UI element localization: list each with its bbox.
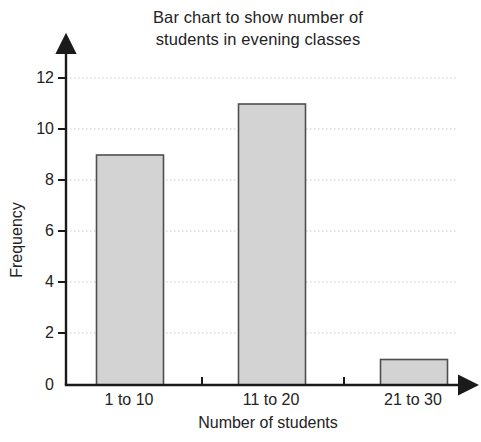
bar-21-to-30 xyxy=(381,360,448,386)
plot-area xyxy=(0,0,481,442)
bar-chart: Bar chart to show number of students in … xyxy=(0,0,481,442)
bar-11-to-20 xyxy=(239,104,306,385)
bar-1-to-10 xyxy=(97,155,164,385)
